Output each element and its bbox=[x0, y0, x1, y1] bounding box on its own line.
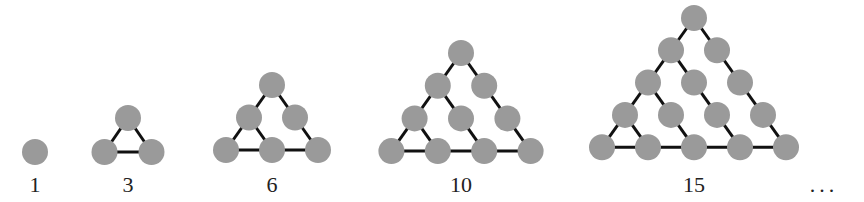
triangle-figure-3 bbox=[92, 105, 165, 165]
edge bbox=[461, 53, 531, 151]
dot bbox=[378, 138, 404, 164]
dot bbox=[282, 105, 308, 131]
dot bbox=[425, 73, 451, 99]
dot bbox=[448, 40, 474, 66]
dot bbox=[658, 37, 684, 63]
dot bbox=[139, 139, 165, 165]
dot bbox=[22, 139, 48, 165]
dot bbox=[448, 105, 474, 131]
dot bbox=[658, 102, 684, 128]
triangle-figure-6 bbox=[213, 72, 331, 163]
dot bbox=[425, 138, 451, 164]
triangle-figure-10 bbox=[378, 40, 543, 164]
dot bbox=[471, 73, 497, 99]
dot bbox=[213, 137, 239, 163]
dot bbox=[92, 139, 118, 165]
label-10: 10 bbox=[450, 172, 472, 198]
dot bbox=[681, 5, 707, 31]
dot bbox=[115, 105, 141, 131]
dot bbox=[589, 134, 615, 160]
ellipsis: ... bbox=[810, 172, 839, 198]
dot bbox=[681, 134, 707, 160]
dot bbox=[704, 102, 730, 128]
edge bbox=[671, 50, 740, 147]
dot bbox=[773, 134, 799, 160]
label-15: 15 bbox=[683, 172, 705, 198]
label-6: 6 bbox=[267, 172, 278, 198]
dot bbox=[681, 70, 707, 96]
dot bbox=[727, 134, 753, 160]
dot bbox=[635, 70, 661, 96]
label-1: 1 bbox=[30, 172, 41, 198]
dot bbox=[236, 105, 262, 131]
dot bbox=[305, 137, 331, 163]
dot bbox=[259, 137, 285, 163]
dot bbox=[494, 105, 520, 131]
dot bbox=[402, 105, 428, 131]
dot bbox=[259, 72, 285, 98]
dot bbox=[750, 102, 776, 128]
dot bbox=[518, 138, 544, 164]
triangle-figure-15 bbox=[589, 5, 799, 160]
triangle-figure-1 bbox=[22, 139, 48, 165]
dot bbox=[704, 37, 730, 63]
dot bbox=[471, 138, 497, 164]
dot bbox=[612, 102, 638, 128]
dot bbox=[727, 70, 753, 96]
dot bbox=[635, 134, 661, 160]
label-3: 3 bbox=[123, 172, 134, 198]
